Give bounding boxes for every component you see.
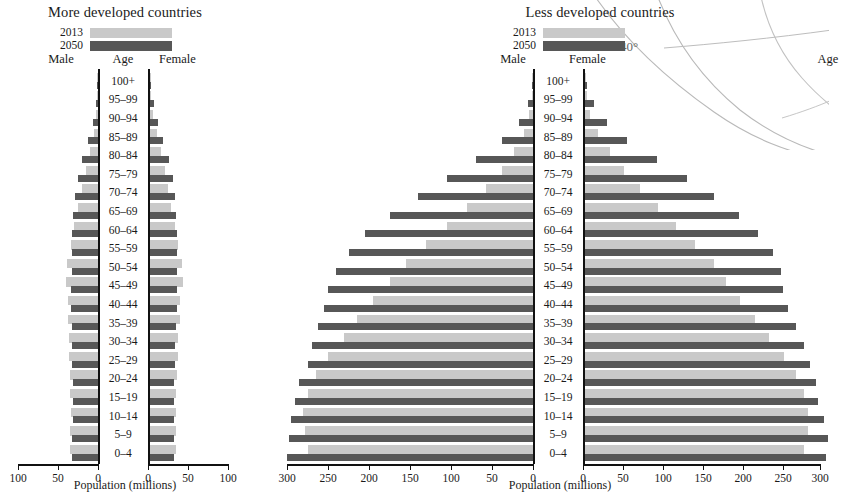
age-group-label: 30–34: [533, 336, 583, 347]
bar-left-2050: [295, 398, 533, 405]
bar-right-2050: [150, 212, 177, 219]
bar-left-2050: [73, 379, 98, 386]
bar-right-2050: [585, 137, 628, 144]
female-axis-baseline: [583, 464, 820, 466]
bar-left-2050: [75, 193, 98, 200]
bar-right-2050: [150, 286, 177, 293]
age-group-label: 55–59: [98, 243, 148, 254]
age-group-label: 40–44: [533, 299, 583, 310]
age-group-label: 5–9: [98, 429, 148, 440]
bar-left-2050: [93, 119, 98, 126]
bar-right-2050: [585, 416, 824, 423]
bar-right-2050: [150, 454, 174, 461]
bar-right-2050: [150, 416, 174, 423]
bar-right-2050: [585, 249, 774, 256]
bar-right-2050: [585, 379, 816, 386]
panel-less-developed: Less developed countries 2013 2050 Male …: [270, 0, 829, 491]
age-group-label: 15–19: [98, 392, 148, 403]
bar-right-2050: [585, 398, 819, 405]
bar-left-2050: [390, 212, 534, 219]
male-axis-tick: [533, 464, 534, 470]
age-group-label: 100+: [98, 76, 148, 87]
bar-right-2050: [585, 100, 594, 107]
male-axis-tick: [369, 464, 370, 470]
bar-left-2050: [72, 454, 98, 461]
bar-left-2050: [447, 175, 533, 182]
bar-left-2050: [532, 82, 533, 89]
age-group-label: 20–24: [98, 373, 148, 384]
age-group-label: 65–69: [98, 206, 148, 217]
bar-right-2050: [585, 342, 805, 349]
bar-left-2050: [287, 454, 533, 461]
age-group-label: 30–34: [98, 336, 148, 347]
bar-right-2050: [585, 119, 607, 126]
age-group-label: 0–4: [533, 448, 583, 459]
bar-left-2050: [299, 379, 533, 386]
bar-right-2050: [150, 100, 154, 107]
age-group-label: 45–49: [98, 280, 148, 291]
bar-right-2050: [150, 119, 158, 126]
male-axis-tick: [328, 464, 329, 470]
bar-right-2050: [150, 249, 177, 256]
age-group-label: 20–24: [533, 373, 583, 384]
bar-left-2050: [78, 175, 98, 182]
bar-left-2050: [97, 82, 98, 89]
bar-right-2050: [585, 454, 827, 461]
female-axis-tick: [188, 464, 189, 470]
bar-right-2050: [150, 193, 175, 200]
bar-left-2050: [71, 305, 98, 312]
bar-right-2050: [150, 361, 175, 368]
bar-left-2050: [289, 435, 533, 442]
bar-left-2050: [71, 286, 98, 293]
bar-right-2050: [150, 175, 173, 182]
bar-left-2050: [502, 137, 533, 144]
age-group-label: 35–39: [98, 318, 148, 329]
bar-left-2050: [328, 286, 533, 293]
female-axis-tick: [783, 464, 784, 470]
male-axis-tick: [410, 464, 411, 470]
age-group-label: 90–94: [98, 113, 148, 124]
bar-left-2050: [519, 119, 533, 126]
bar-left-2050: [318, 323, 533, 330]
female-axis-tick-label: 250: [763, 472, 803, 484]
bar-right-2050: [585, 156, 657, 163]
bar-left-2050: [336, 268, 533, 275]
bar-right-2050: [585, 230, 759, 237]
bar-right-2050: [150, 156, 169, 163]
female-axis-tick: [743, 464, 744, 470]
bar-right-2050: [585, 175, 688, 182]
age-group-label: 85–89: [533, 132, 583, 143]
bar-left-2050: [73, 398, 98, 405]
bar-left-2050: [72, 435, 98, 442]
bar-right-2050: [585, 361, 811, 368]
age-group-label: 80–84: [98, 150, 148, 161]
female-axis-tick: [148, 464, 149, 470]
age-group-label: 70–74: [533, 187, 583, 198]
male-axis-tick-label: 300: [267, 472, 307, 484]
male-axis-tick: [287, 464, 288, 470]
bar-right-2050: [150, 305, 177, 312]
age-group-label: 80–84: [533, 150, 583, 161]
bar-left-2050: [324, 305, 533, 312]
age-group-label: 95–99: [98, 94, 148, 105]
bar-right-2050: [585, 323, 797, 330]
bar-right-2050: [585, 212, 739, 219]
female-axis-tick-label: 200: [723, 472, 763, 484]
bar-right-2050: [585, 286, 783, 293]
bar-right-2050: [150, 435, 174, 442]
bar-right-2050: [150, 379, 174, 386]
age-group-label: 25–29: [533, 355, 583, 366]
bar-right-2050: [150, 323, 176, 330]
age-group-label: 45–49: [533, 280, 583, 291]
bar-left-2050: [73, 416, 98, 423]
age-group-label: 75–79: [533, 169, 583, 180]
male-axis-tick: [58, 464, 59, 470]
bar-right-2050: [150, 230, 177, 237]
bar-right-2050: [150, 82, 152, 89]
male-axis-tick-label: 200: [349, 472, 389, 484]
bar-left-2050: [528, 100, 533, 107]
bar-left-2050: [72, 342, 98, 349]
bar-right-2050: [585, 268, 782, 275]
age-group-label: 65–69: [533, 206, 583, 217]
